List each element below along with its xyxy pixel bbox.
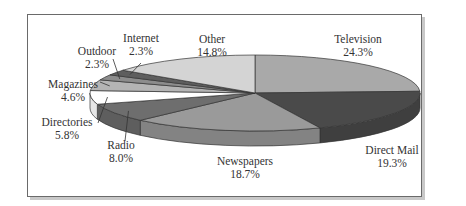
label-internet: Internet 2.3% — [116, 32, 166, 58]
slice-value: 2.3% — [116, 45, 166, 58]
label-direct-mail: Direct Mail 19.3% — [352, 144, 432, 170]
slice-label: Magazines — [40, 78, 106, 91]
label-magazines: Magazines 4.6% — [40, 78, 106, 104]
slice-label: Television — [318, 33, 398, 46]
slice-label: Direct Mail — [352, 144, 432, 157]
slice-label: Newspapers — [205, 155, 285, 168]
slice-value: 18.7% — [205, 168, 285, 181]
slice-label: Outdoor — [72, 45, 122, 58]
label-other: Other 14.8% — [187, 33, 237, 59]
label-directories: Directories 5.8% — [34, 116, 100, 142]
label-newspapers: Newspapers 18.7% — [205, 155, 285, 181]
slice-value: 19.3% — [352, 157, 432, 170]
slice-television — [255, 55, 420, 93]
slice-value: 8.0% — [96, 152, 146, 165]
slice-value: 4.6% — [40, 91, 106, 104]
label-radio: Radio 8.0% — [96, 139, 146, 165]
slice-value: 14.8% — [187, 46, 237, 59]
slice-label: Internet — [116, 32, 166, 45]
slice-value: 24.3% — [318, 46, 398, 59]
slice-label: Other — [187, 33, 237, 46]
slice-value: 2.3% — [72, 58, 122, 71]
label-outdoor: Outdoor 2.3% — [72, 45, 122, 71]
slice-value: 5.8% — [34, 129, 100, 142]
slice-label: Directories — [34, 116, 100, 129]
slice-label: Radio — [96, 139, 146, 152]
label-television: Television 24.3% — [318, 33, 398, 59]
